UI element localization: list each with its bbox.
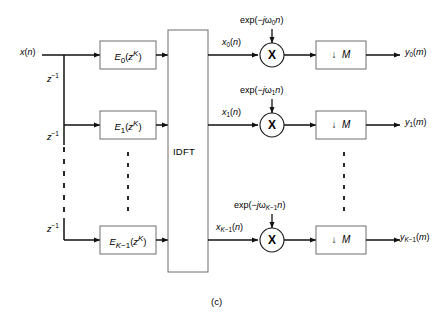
exponential-label-k1: exp(−jωK−1n) bbox=[234, 201, 285, 210]
idft-to-multiplier-wires bbox=[208, 55, 258, 240]
branch-signal-label-k1: xK−1(n) bbox=[216, 223, 243, 232]
branch-signal-label-0: x0(n) bbox=[222, 38, 241, 47]
output-label-1: y1(m) bbox=[405, 118, 427, 127]
delay-label-2: z−1 bbox=[47, 133, 59, 142]
input-signal-label: x(n) bbox=[20, 48, 36, 57]
diagram-graphics bbox=[0, 0, 439, 321]
output-label-0: y0(m) bbox=[405, 48, 427, 57]
multiplier-to-downsampler-wires bbox=[284, 55, 316, 240]
figure-caption: (c) bbox=[211, 296, 222, 307]
exponential-label-0: exp(−jω0n) bbox=[240, 16, 283, 25]
branch-signal-label-1: x1(n) bbox=[222, 108, 241, 117]
idft-label: IDFT bbox=[173, 146, 195, 157]
filter-label-0: E0(zK) bbox=[100, 50, 156, 65]
filter-to-idft-wires bbox=[156, 55, 168, 240]
filter-taps bbox=[64, 125, 100, 240]
multiplier-symbol-0: X bbox=[268, 49, 276, 61]
multiplier-symbol-k1: X bbox=[268, 234, 276, 246]
output-label-k1: yK−1(m) bbox=[400, 233, 430, 242]
downsampler-label-0: ↓ M bbox=[316, 49, 366, 60]
filter-label-k1: EK−1(zK) bbox=[100, 235, 156, 250]
output-wires bbox=[366, 55, 400, 240]
figure-canvas: x(n) z−1 z−1 z−1 E0(zK) E1(zK) EK−1(zK) … bbox=[0, 0, 439, 321]
exponential-label-1: exp(−jω1n) bbox=[240, 86, 283, 95]
delay-label-3: z−1 bbox=[47, 225, 59, 234]
downsampler-label-1: ↓ M bbox=[316, 119, 366, 130]
delay-label-1: z−1 bbox=[47, 75, 59, 84]
downsampler-label-k1: ↓ M bbox=[316, 234, 366, 245]
multiplier-symbol-1: X bbox=[268, 119, 276, 131]
filter-label-1: E1(zK) bbox=[100, 120, 156, 135]
